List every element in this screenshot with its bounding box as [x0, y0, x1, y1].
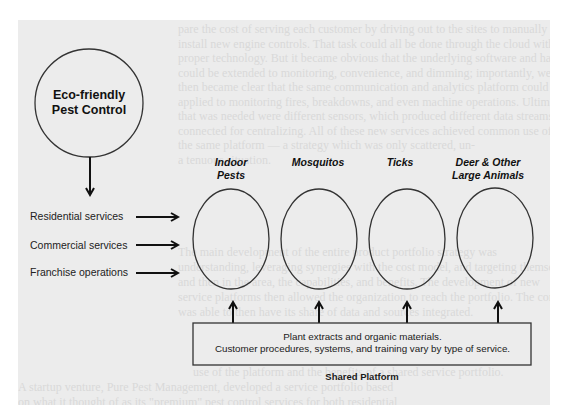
category-ellipse [457, 188, 533, 288]
service-label-franchise: Franchise operations [30, 266, 128, 278]
category-label-deer: Deer & Other Large Animals [433, 156, 543, 182]
category-line: Pests [176, 169, 286, 182]
category-ellipse [369, 189, 445, 289]
platform-description: Plant extracts and organic materials. Cu… [194, 331, 531, 355]
hub-title: Eco-friendly Pest Control [42, 88, 136, 118]
platform-line: Plant extracts and organic materials. [194, 331, 531, 343]
platform-line: Customer procedures, systems, and traini… [194, 343, 531, 355]
category-line: Deer & Other [433, 156, 543, 169]
category-ellipse [281, 189, 357, 289]
service-label-commercial: Commercial services [30, 239, 127, 251]
category-line: Large Animals [433, 169, 543, 182]
category-ellipse [193, 189, 269, 289]
hub-title-line: Pest Control [42, 103, 136, 118]
hub-title-line: Eco-friendly [42, 88, 136, 103]
platform-caption: Shared Platform [300, 371, 424, 382]
service-label-residential: Residential services [30, 210, 123, 222]
